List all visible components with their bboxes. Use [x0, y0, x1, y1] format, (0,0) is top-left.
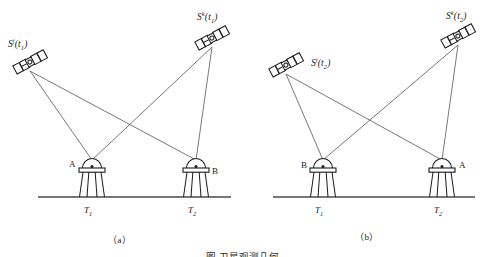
tower-t1-label: T1 — [84, 206, 92, 217]
sight-line-s1-t1 — [196, 47, 212, 160]
panel-b: Sj(t2)Sk(t2)BAT1T2（b） — [243, 0, 485, 257]
sat-j-t2 — [269, 53, 304, 77]
sat-k-t1 — [195, 26, 230, 50]
satellite-geometry-figure: Sj(t1)Sk(t1)ABT1T2（a） Sj(t2)Sk(t2)BAT1T2… — [0, 0, 485, 257]
sat-k-t2-label: Sk(t2) — [446, 10, 467, 24]
station-b-label: B — [212, 167, 218, 176]
sight-line-s0-t0 — [286, 74, 323, 160]
panel-b-canvas — [243, 0, 485, 257]
panel-b-caption: （b） — [355, 233, 379, 242]
tower-t1-label: T1 — [315, 206, 323, 217]
station-a — [429, 159, 455, 198]
station-a-label: A — [69, 160, 76, 169]
sight-line-s1-t1 — [442, 45, 458, 160]
sat-k-t2 — [441, 24, 476, 48]
sat-j-t1 — [13, 50, 48, 74]
sat-j-t2-label: Sj(t2) — [311, 57, 330, 71]
sat-j-t1-label: Sj(t1) — [8, 38, 27, 52]
sat-k-t1-label: Sk(t1) — [197, 11, 218, 25]
sight-line-s1-t0 — [92, 47, 212, 160]
station-b — [183, 159, 209, 198]
tower-t2-label: T2 — [188, 206, 196, 217]
sight-lines — [30, 47, 212, 160]
panel-a: Sj(t1)Sk(t1)ABT1T2（a） — [0, 0, 242, 257]
station-b-label: B — [301, 161, 307, 170]
station-b — [310, 159, 336, 198]
panel-a-canvas — [0, 0, 242, 257]
sight-line-s0-t0 — [30, 71, 92, 160]
figure-caption: 图 卫星观测几何 — [0, 249, 485, 257]
station-a — [79, 159, 105, 198]
sight-line-s0-t1 — [286, 74, 442, 160]
panel-a-caption: （a） — [108, 236, 131, 245]
sight-line-s1-t0 — [323, 45, 458, 160]
station-a-label: A — [459, 161, 466, 170]
tower-t2-label: T2 — [434, 206, 442, 217]
sight-line-s0-t1 — [30, 71, 196, 160]
